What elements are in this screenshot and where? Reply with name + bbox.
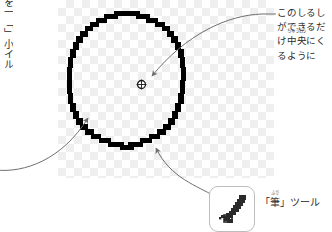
callout-line-3-prefix: け xyxy=(277,35,287,46)
ruby-fude: ふで筆 xyxy=(270,196,280,209)
ruby-base-chuuou: 中央 xyxy=(287,35,307,46)
ruby-base-fude: 筆 xyxy=(270,197,280,208)
tool-label-suffix: 」ツール xyxy=(280,197,320,208)
callout-line-1: このしるし xyxy=(277,6,332,20)
paintbrush-tool-label: 「ふで筆」ツール xyxy=(260,196,320,209)
callout-line-4: るように xyxy=(277,49,332,63)
pixelated-circle-drawing xyxy=(58,10,198,160)
callout-text-left-clipped: を一「」小イル xyxy=(0,0,13,117)
ruby-text-chuuou: ちゅうおう xyxy=(287,29,307,33)
paintbrush-tool-button[interactable] xyxy=(209,186,255,232)
circle-pixels xyxy=(67,11,186,150)
ruby-chuuou: ちゅうおう中央 xyxy=(287,34,307,48)
callout-line-3-suffix: にく xyxy=(306,35,326,46)
screenshot-root: このしるし ができるだ けちゅうおう中央にく るように を一「」小イル 「ふで xyxy=(0,0,332,232)
center-registration-mark xyxy=(136,79,147,90)
tool-label-prefix: 「 xyxy=(260,197,270,208)
callout-line-3: けちゅうおう中央にく xyxy=(277,34,332,48)
callout-text-right: このしるし ができるだ けちゅうおう中央にく るように xyxy=(277,6,332,63)
paintbrush-tool-icon xyxy=(215,192,251,228)
ruby-text-fude: ふで xyxy=(271,191,279,195)
